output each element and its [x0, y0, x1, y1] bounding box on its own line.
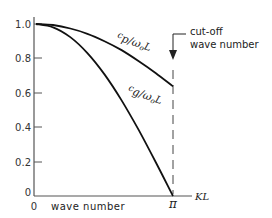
cutoff-label-line1: cut-off	[190, 26, 224, 37]
y-tick-0-4: 0.4	[15, 122, 31, 133]
curve-cg	[36, 24, 173, 196]
curve-cp	[36, 24, 173, 86]
x-symbol-kl: KL	[194, 191, 209, 202]
svg-text:cp/ωoL: cp/ωoL	[115, 30, 154, 55]
cp-curve-label: cp/ωoL	[115, 30, 154, 55]
y-tick-0-6: 0.6	[15, 88, 31, 99]
y-tick-0: 0	[25, 187, 31, 198]
y-tick-0-2: 0.2	[15, 157, 31, 168]
cg-curve-label: cg/ωoL	[126, 83, 165, 108]
y-ticks	[34, 24, 42, 162]
x-axis-title: wave number	[51, 201, 125, 212]
y-tick-labels: 1.0 0.8 0.6 0.4 0.2 0	[15, 19, 31, 198]
cutoff-arrow-icon	[169, 34, 186, 60]
y-tick-0-8: 0.8	[15, 53, 31, 64]
dispersion-chart: 1.0 0.8 0.6 0.4 0.2 0 0 wave number π KL…	[0, 0, 272, 218]
y-tick-1-0: 1.0	[15, 19, 31, 30]
x-pi-label: π	[168, 197, 178, 211]
x-origin-label: 0	[31, 201, 37, 212]
cutoff-label-line2: wave number	[190, 39, 259, 50]
axes	[34, 17, 192, 196]
svg-text:cg/ωoL: cg/ωoL	[126, 83, 165, 108]
